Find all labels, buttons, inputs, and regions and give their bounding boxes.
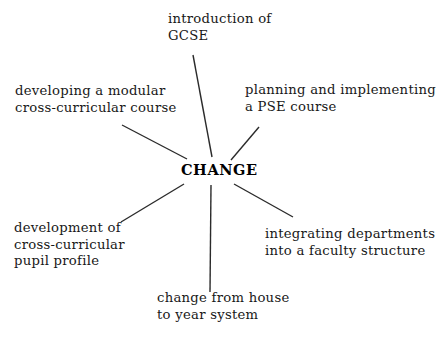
spider-diagram: CHANGE introduction of GCSE developing a… — [0, 0, 447, 351]
spoke-label-change-from-house-to-year-system: change from house to year system — [157, 290, 289, 323]
spoke-label-developing-a-modular-cross-curricular-course: developing a modular cross-curricular co… — [15, 83, 177, 116]
spoke-label-introduction-of-gcse: introduction of GCSE — [168, 11, 272, 44]
spoke-line-lower-right — [234, 184, 293, 217]
spoke-label-planning-and-implementing-a-pse-course: planning and implementing a PSE course — [245, 82, 436, 115]
spoke-line-bottom — [210, 185, 211, 292]
spoke-line-upper-left — [122, 125, 187, 159]
spoke-line-lower-left — [121, 184, 184, 222]
spoke-label-integrating-departments-into-a-faculty-structure: integrating departments into a faculty s… — [265, 226, 435, 259]
spoke-line-top — [193, 55, 212, 157]
spoke-line-upper-right — [231, 127, 259, 160]
spoke-label-development-of-cross-curricular-pupil-profile: development of cross-curricular pupil pr… — [14, 220, 125, 270]
center-node-change: CHANGE — [181, 161, 258, 178]
